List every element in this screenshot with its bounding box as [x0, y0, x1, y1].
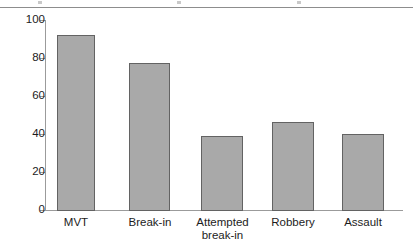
bar-mvt — [57, 35, 95, 211]
x-label-attempted-break-in: Attempted break-in — [186, 216, 259, 242]
bar-assault — [342, 134, 384, 211]
plot-area: 100 80 60 40 20 0 MVT Break-in — [0, 0, 413, 247]
y-tick-label: 0 — [11, 204, 45, 215]
x-label-robbery: Robbery — [260, 216, 326, 229]
y-tick-label: 20 — [11, 166, 45, 177]
y-tick-100: 100 — [0, 20, 45, 21]
y-tick-label: 60 — [11, 90, 45, 101]
y-tick-label: 100 — [11, 14, 45, 25]
x-label-mvt: MVT — [46, 216, 106, 229]
y-tick-label: 80 — [11, 52, 45, 63]
y-tick-60: 60 — [0, 96, 45, 97]
y-tick-20: 20 — [0, 172, 45, 173]
x-label-break-in: Break-in — [117, 216, 183, 229]
y-tick-label: 40 — [11, 128, 45, 139]
y-axis-line — [45, 20, 46, 211]
x-label-assault: Assault — [331, 216, 395, 229]
bar-chart-figure: 100 80 60 40 20 0 MVT Break-in — [0, 0, 413, 247]
bar-robbery — [272, 122, 314, 211]
y-tick-40: 40 — [0, 134, 45, 135]
bar-break-in — [129, 63, 170, 211]
y-tick-0: 0 — [0, 210, 45, 211]
bar-attempted-break-in — [201, 136, 243, 211]
y-tick-80: 80 — [0, 58, 45, 59]
